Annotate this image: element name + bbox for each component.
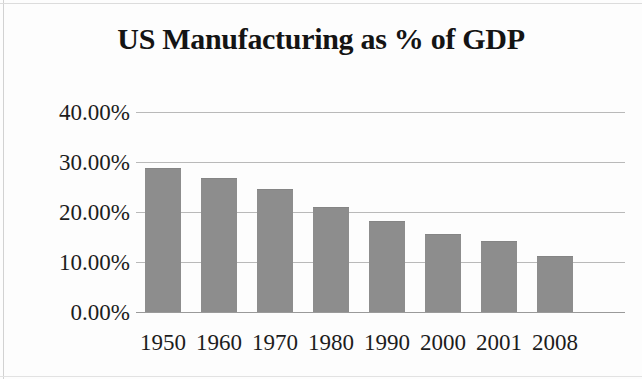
bar-2008 <box>537 256 573 312</box>
x-axis-tick-label-2001: 2001 <box>471 330 527 356</box>
x-axis-tick-label-1960: 1960 <box>191 330 247 356</box>
bar-1960 <box>201 178 237 312</box>
gridline-4000 <box>136 112 625 113</box>
bar-2000 <box>425 234 461 312</box>
plot-area <box>136 112 625 312</box>
y-axis-tick-label: 10.00% <box>6 251 130 274</box>
y-axis-tick-label: 20.00% <box>6 201 130 224</box>
y-axis-tick-label: 0.00% <box>6 301 130 324</box>
gridline-000 <box>136 312 625 313</box>
bar-2001 <box>481 241 517 312</box>
x-axis-tick-label-1950: 1950 <box>135 330 191 356</box>
bar-1950 <box>145 168 181 312</box>
x-axis: 19501960197019801990200020012008 <box>136 330 625 364</box>
y-axis: 0.00%10.00%20.00%30.00%40.00% <box>0 0 130 379</box>
bar-chart-figure: US Manufacturing as % of GDP 0.00%10.00%… <box>0 0 642 379</box>
y-axis-tick-label: 30.00% <box>6 151 130 174</box>
x-axis-tick-label-2008: 2008 <box>527 330 583 356</box>
bar-1990 <box>369 221 405 312</box>
x-axis-tick-label-1980: 1980 <box>303 330 359 356</box>
gridline-3000 <box>136 162 625 163</box>
bar-1970 <box>257 189 293 312</box>
y-axis-tick-label: 40.00% <box>6 101 130 124</box>
x-axis-tick-label-1970: 1970 <box>247 330 303 356</box>
x-axis-tick-label-2000: 2000 <box>415 330 471 356</box>
x-axis-tick-label-1990: 1990 <box>359 330 415 356</box>
bar-1980 <box>313 207 349 312</box>
